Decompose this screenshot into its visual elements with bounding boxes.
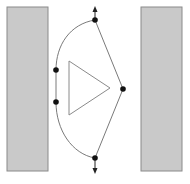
up-arrow-icon — [93, 6, 98, 12]
inner-triangle — [69, 61, 110, 115]
node-left-lower — [53, 99, 59, 105]
node-right — [120, 86, 126, 92]
diagram-canvas — [0, 0, 190, 184]
left-curve-path — [56, 20, 95, 158]
node-bottom — [92, 155, 98, 161]
node-top — [92, 17, 98, 23]
node-left-upper — [53, 67, 59, 73]
right-wall — [141, 7, 182, 171]
left-wall — [7, 7, 48, 171]
down-arrow-icon — [93, 168, 98, 174]
